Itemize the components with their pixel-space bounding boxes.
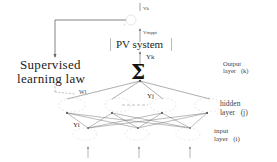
hidden-layer-label: hidden layer (j)	[220, 100, 248, 117]
output-layer-label: Output layer (k)	[223, 60, 248, 75]
pv-system-label: PV system	[116, 39, 163, 50]
summing-junction	[126, 15, 136, 25]
supervised-learning-block: Supervised learning law	[17, 58, 85, 85]
summing-sign: +	[123, 22, 126, 27]
input-layer-label: input layer (i)	[214, 127, 240, 143]
vmppt-label: Vmppt	[143, 30, 157, 35]
pv-system-block: PV system	[110, 38, 172, 51]
input-output-label: Yi	[73, 122, 80, 129]
learning-block-line2: learning law	[17, 72, 85, 86]
weight-label: Wl	[79, 89, 86, 95]
learning-block-line1: Supervised	[17, 58, 85, 72]
hidden-output-label: Yj	[147, 93, 154, 100]
sigma-summation: Σ	[131, 62, 145, 82]
yk-label: Yk	[146, 54, 155, 61]
top-signal-label: Vk	[143, 6, 149, 11]
